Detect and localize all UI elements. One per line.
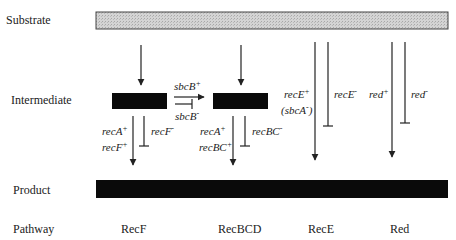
pathway-label-rece: RecE	[308, 222, 334, 236]
label-recbc-minus: recBC-	[252, 124, 283, 137]
intermediate-block-recbcd	[213, 93, 268, 109]
label-sbcb-plus: sbcB+	[174, 79, 201, 92]
row-label-substrate: Substrate	[6, 13, 51, 27]
label-recf-plus: recF+	[102, 140, 128, 153]
intermediate-block-recf	[112, 93, 167, 109]
label-recbc-plus: recBC+	[199, 140, 232, 153]
substrate-bar	[96, 12, 448, 29]
product-bar	[96, 180, 448, 198]
row-label-product: Product	[13, 183, 51, 197]
label-sbca-minus: (sbcA-)	[281, 103, 313, 117]
pathway-label-recbcd: RecBCD	[218, 222, 262, 236]
label-red-plus: red+	[369, 87, 389, 100]
pathway-label-red: Red	[390, 222, 409, 236]
label-red-minus: red-	[411, 87, 428, 100]
pathway-label-recf: RecF	[121, 222, 147, 236]
label-rece-plus: recE+	[284, 87, 310, 100]
label-reca-plus-recf: recA+	[102, 124, 128, 137]
row-label-intermediate: Intermediate	[11, 93, 72, 107]
label-rece-minus: recE-	[334, 87, 357, 100]
label-recf-minus: recF-	[151, 124, 174, 137]
row-label-pathway: Pathway	[13, 222, 54, 236]
label-sbcb-minus: sbcB-	[175, 109, 199, 122]
label-reca-plus-recbcd: recA+	[200, 124, 226, 137]
recombination-pathway-diagram: Substrate Intermediate Product Pathway s…	[0, 0, 456, 240]
